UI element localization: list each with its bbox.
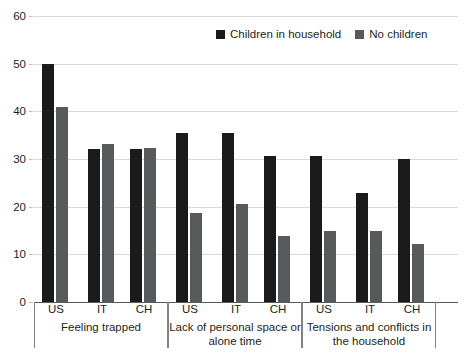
x-axis-category-label: US [39, 302, 73, 316]
x-axis-group-label: Tensions and conflicts in the household [303, 321, 435, 348]
x-axis-labels: Feeling trappedUSITCHLack of personal sp… [0, 302, 471, 356]
y-tick-label: 60 [0, 10, 26, 22]
y-tick-mark [29, 16, 33, 17]
bar [398, 159, 410, 302]
y-tick-label: 40 [0, 105, 26, 117]
y-tick-label: 20 [0, 201, 26, 213]
bar [236, 204, 248, 302]
bar [42, 64, 54, 302]
bar [370, 231, 382, 302]
bar [88, 149, 100, 302]
x-axis-category-label: CH [127, 302, 161, 316]
bar [102, 144, 114, 302]
bar [56, 107, 68, 302]
bar-chart: Children in household No children 605040… [0, 0, 471, 356]
x-axis-category-label: IT [85, 302, 119, 316]
y-tick-mark [29, 159, 33, 160]
x-axis-group-label: Lack of personal space or alone time [169, 321, 301, 348]
y-tick-mark [29, 111, 33, 112]
bar [130, 149, 142, 302]
x-axis-category-label: CH [395, 302, 429, 316]
y-tick-label: 50 [0, 58, 26, 70]
x-axis-category-label: US [307, 302, 341, 316]
plot-area: 6050403020100 [34, 10, 471, 302]
y-tick-mark [29, 254, 33, 255]
x-axis-category-label: IT [353, 302, 387, 316]
bar [278, 236, 290, 302]
x-axis-group-label: Feeling trapped [35, 321, 167, 335]
y-tick-mark [29, 64, 33, 65]
bars-layer [34, 10, 471, 302]
bar [190, 213, 202, 302]
bar [176, 133, 188, 302]
bar [412, 244, 424, 302]
bar [222, 133, 234, 302]
x-axis-category-label: US [173, 302, 207, 316]
bar [310, 156, 322, 302]
bar [144, 148, 156, 302]
bar [324, 231, 336, 302]
bar [356, 193, 368, 302]
bar [264, 156, 276, 302]
y-tick-label: 30 [0, 153, 26, 165]
x-axis-category-label: CH [261, 302, 295, 316]
y-tick-label: 10 [0, 248, 26, 260]
y-tick-mark [29, 207, 33, 208]
x-axis-category-label: IT [219, 302, 253, 316]
